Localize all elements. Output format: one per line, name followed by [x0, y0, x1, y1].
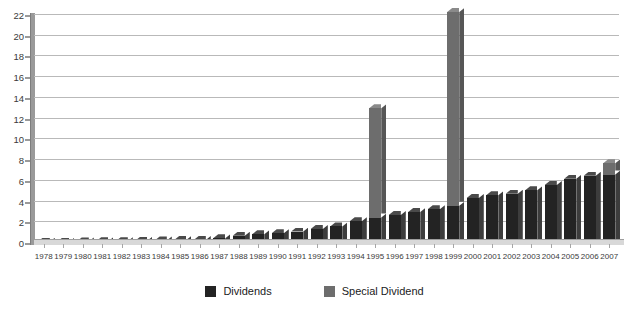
bar-segment-2003-dividends[interactable] — [525, 190, 537, 243]
bar-side-face — [479, 194, 484, 239]
bar-front-face — [447, 12, 459, 206]
bar-front-face — [603, 175, 615, 243]
bar-side-face — [576, 175, 581, 239]
bar-top-face — [506, 190, 518, 194]
x-axis-tick-2007 — [609, 244, 610, 248]
y-axis-label-10: 10 — [0, 134, 24, 145]
legend-item-special-dividend[interactable]: Special Dividend — [324, 285, 424, 297]
bar-top-face — [525, 186, 537, 190]
bar-side-face — [537, 186, 542, 239]
x-axis-tick-1988 — [239, 244, 240, 248]
y-axis-label-8: 8 — [0, 155, 24, 166]
x-axis-label-1998: 1998 — [425, 252, 443, 261]
bar-side-face — [284, 229, 289, 239]
y-axis-label-20: 20 — [0, 30, 24, 41]
bar-top-face — [447, 8, 459, 12]
x-axis-tick-1987 — [219, 244, 220, 248]
x-axis-tick-1979 — [63, 244, 64, 248]
y-axis-label-0: 0 — [0, 238, 24, 249]
legend-label: Dividends — [223, 285, 271, 297]
bar-top-face — [584, 172, 596, 176]
x-axis-tick-2001 — [492, 244, 493, 248]
bar-side-face — [557, 181, 562, 239]
x-axis-tick-1998 — [434, 244, 435, 248]
bar-side-face — [596, 172, 601, 239]
bar-side-face — [303, 228, 308, 239]
x-axis-tick-2004 — [551, 244, 552, 248]
x-axis-tick-2006 — [590, 244, 591, 248]
bar-top-face — [467, 194, 479, 198]
x-axis-tick-labels: 1978197919801981198219831984198519861987… — [34, 252, 619, 266]
x-axis-tick-1991 — [297, 244, 298, 248]
bar-segment-2001-dividends[interactable] — [486, 195, 498, 243]
bar-top-face — [486, 191, 498, 195]
bar-front-face — [428, 209, 440, 243]
bar-series-container — [34, 15, 619, 243]
x-axis-tick-1997 — [414, 244, 415, 248]
bar-front-face — [545, 185, 557, 243]
bar-segment-1999-special-dividend[interactable] — [447, 12, 459, 206]
x-axis-tick-1986 — [200, 244, 201, 248]
chart-legend: DividendsSpecial Dividend — [0, 285, 629, 297]
x-axis-label-1979: 1979 — [54, 252, 72, 261]
x-axis-tick-1980 — [83, 244, 84, 248]
bar-segment-2000-dividends[interactable] — [467, 198, 479, 243]
x-axis-tick-2002 — [512, 244, 513, 248]
x-axis-label-1991: 1991 — [288, 252, 306, 261]
bar-segment-2007-dividends[interactable] — [603, 175, 615, 243]
x-axis-tick-2000 — [473, 244, 474, 248]
x-axis-label-1978: 1978 — [35, 252, 53, 261]
bar-front-face — [525, 190, 537, 243]
bar-segment-2002-dividends[interactable] — [506, 194, 518, 243]
x-axis-tick-1989 — [258, 244, 259, 248]
y-axis-label-4: 4 — [0, 196, 24, 207]
x-axis-label-1995: 1995 — [366, 252, 384, 261]
bar-side-face — [264, 230, 269, 239]
x-axis-label-2000: 2000 — [464, 252, 482, 261]
bar-segment-1995-special-dividend[interactable] — [369, 108, 381, 217]
x-axis-tick-1995 — [375, 244, 376, 248]
bar-top-face — [291, 228, 303, 232]
bar-front-face — [564, 179, 576, 243]
bar-front-face — [486, 195, 498, 243]
bar-segment-2007-special-dividend[interactable] — [603, 163, 615, 174]
y-axis-tick-labels: 0246810121416182022 — [0, 0, 28, 311]
x-axis-tick-1999 — [453, 244, 454, 248]
bar-segment-2006-dividends[interactable] — [584, 176, 596, 243]
x-axis-label-1994: 1994 — [347, 252, 365, 261]
bar-segment-2004-dividends[interactable] — [545, 185, 557, 243]
x-axis-label-2006: 2006 — [581, 252, 599, 261]
bar-top-face — [330, 222, 342, 226]
bar-top-face — [564, 175, 576, 179]
bar-top-face — [350, 217, 362, 221]
bar-segment-1998-dividends[interactable] — [428, 209, 440, 243]
x-axis-tick-1984 — [161, 244, 162, 248]
y-axis-label-6: 6 — [0, 175, 24, 186]
y-axis-label-2: 2 — [0, 217, 24, 228]
bar-side-face — [342, 222, 347, 239]
x-axis-label-2007: 2007 — [600, 252, 618, 261]
x-axis-tick-2003 — [531, 244, 532, 248]
bar-side-face — [440, 205, 445, 239]
x-axis-label-1989: 1989 — [249, 252, 267, 261]
bar-side-face — [381, 104, 386, 213]
legend-swatch-dividends — [205, 286, 216, 297]
bar-side-face — [362, 217, 367, 239]
x-axis-tick-2005 — [570, 244, 571, 248]
x-axis-label-1988: 1988 — [230, 252, 248, 261]
y-axis-label-12: 12 — [0, 113, 24, 124]
bar-segment-1999-dividends[interactable] — [447, 206, 459, 243]
x-axis-label-1999: 1999 — [444, 252, 462, 261]
x-axis-label-1984: 1984 — [152, 252, 170, 261]
bar-segment-2005-dividends[interactable] — [564, 179, 576, 243]
bar-front-face — [369, 108, 381, 217]
legend-swatch-special-dividend — [324, 286, 335, 297]
x-axis-tick-1992 — [317, 244, 318, 248]
bar-side-face — [615, 171, 620, 239]
legend-item-dividends[interactable]: Dividends — [205, 285, 271, 297]
x-axis-label-1980: 1980 — [74, 252, 92, 261]
x-axis-tick-1993 — [336, 244, 337, 248]
bar-side-face — [420, 208, 425, 239]
bar-top-face — [213, 234, 225, 238]
x-axis-label-1992: 1992 — [308, 252, 326, 261]
